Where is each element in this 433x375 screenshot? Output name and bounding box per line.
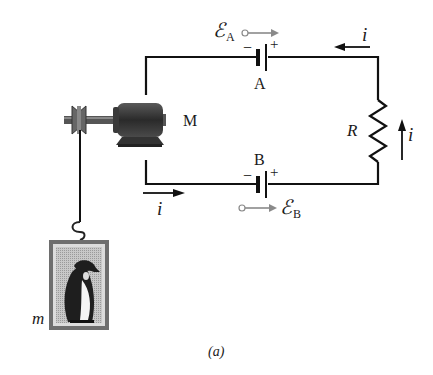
current-arrow-bottom-icon <box>143 189 185 197</box>
emf-a-subscript: A <box>226 30 235 44</box>
hook-icon <box>73 222 85 240</box>
resistor-label: R <box>347 122 357 139</box>
emf-b-subscript: B <box>293 207 301 221</box>
battery-a-plus: + <box>270 37 278 52</box>
emf-b-symbol: ℰ <box>280 196 292 218</box>
emf-b-arrow-icon <box>239 204 277 212</box>
current-arrow-right-icon <box>398 119 406 160</box>
battery-a-label: A <box>254 76 266 92</box>
figure-caption: (a) <box>208 345 224 359</box>
pulley-icon <box>72 106 86 134</box>
current-label-right: i <box>408 125 413 144</box>
current-label-top: i <box>362 25 367 44</box>
emf-a-label: ℰA <box>213 20 235 43</box>
emf-b-label: ℰB <box>280 197 301 220</box>
motor-label: M <box>183 113 197 129</box>
emf-a-symbol: ℰ <box>213 19 225 41</box>
mass-label: m <box>32 310 44 327</box>
battery-b <box>256 171 267 198</box>
battery-a-minus: − <box>243 40 252 56</box>
battery-b-minus: − <box>243 168 252 184</box>
circuit-diagram <box>0 0 433 375</box>
battery-b-plus: + <box>270 165 278 180</box>
battery-a <box>256 44 267 71</box>
battery-b-label: B <box>254 152 265 168</box>
current-label-bottom: i <box>157 199 162 218</box>
